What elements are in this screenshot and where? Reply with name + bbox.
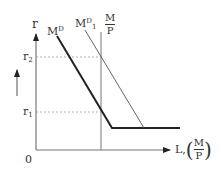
shifted-money-demand-curve bbox=[85, 30, 144, 128]
y-axis-label: r bbox=[32, 18, 38, 30]
r2-label: r2 bbox=[23, 51, 33, 64]
r1-label: r1 bbox=[23, 106, 33, 119]
md-curve-label: MD bbox=[47, 26, 64, 37]
money-supply-label: MP bbox=[105, 12, 115, 36]
x-axis-label: L, ( MP ) bbox=[175, 138, 212, 161]
origin-label: 0 bbox=[25, 154, 32, 165]
money-demand-curve bbox=[57, 36, 180, 128]
md1-curve-label: MD1 bbox=[75, 18, 96, 31]
